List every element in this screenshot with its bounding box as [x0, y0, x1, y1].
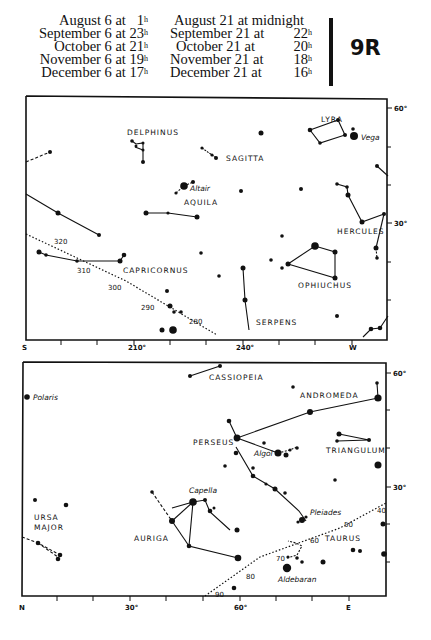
- ecliptic-mark: 310: [77, 267, 90, 275]
- label-vega: Vega: [361, 133, 380, 142]
- label-ursa: URSAMAJOR: [34, 513, 64, 532]
- label-aldebaran: Aldebaran: [277, 575, 317, 584]
- ecliptic-mark: 40: [377, 507, 386, 515]
- label-sagitta: SAGITTA: [226, 154, 265, 163]
- lower-labels: Polaris CASSIOPEIA ANDROMEDA PERSEUS Alg…: [19, 370, 406, 612]
- azimuth-label: 30°: [125, 604, 138, 612]
- label-auriga: AURIGA: [134, 534, 169, 543]
- direction-east: E: [346, 604, 351, 612]
- upper-labels: DELPHINUS SAGITTA LYRA Vega Altair AQUIL…: [22, 105, 407, 352]
- ecliptic-mark: 70: [276, 555, 285, 563]
- star-charts: DELPHINUS SAGITTA LYRA Vega Altair AQUIL…: [0, 0, 431, 640]
- label-perseus: PERSEUS: [193, 438, 234, 447]
- altitude-label: 60°: [394, 105, 407, 113]
- ecliptic-mark: 300: [108, 284, 121, 292]
- azimuth-label: 60°: [234, 604, 247, 612]
- ecliptic-mark: 290: [141, 304, 154, 312]
- altitude-label: 30°: [394, 220, 407, 228]
- ecliptic-mark: 90: [215, 591, 224, 599]
- label-capricornus: CAPRICORNUS: [123, 266, 189, 275]
- direction-north: N: [19, 604, 25, 612]
- label-altair: Altair: [189, 184, 211, 193]
- ecliptic-mark: 280: [189, 318, 202, 326]
- azimuth-label: 240°: [236, 344, 254, 352]
- label-hercules: HERCULES: [337, 227, 385, 236]
- altitude-label: 30°: [393, 484, 406, 492]
- ecliptic-mark: 60: [310, 537, 319, 545]
- label-aquila: AQUILA: [184, 198, 218, 207]
- ecliptic-mark: 50: [344, 521, 353, 529]
- label-andromeda: ANDROMEDA: [300, 391, 359, 400]
- upper-constellation-lines: [26, 120, 388, 337]
- upper-stars: [37, 118, 387, 334]
- altitude-label: 60°: [393, 370, 406, 378]
- label-triangulum: TRIANGULUM: [325, 446, 386, 455]
- label-capella: Capella: [189, 486, 217, 495]
- ecliptic-mark: 320: [54, 238, 67, 246]
- label-pleiades: Pleiades: [310, 508, 341, 517]
- label-taurus: TAURUS: [324, 534, 361, 543]
- direction-south: S: [22, 344, 27, 352]
- label-cassiopeia: CASSIOPEIA: [209, 373, 264, 382]
- ecliptic-mark: 80: [246, 573, 255, 581]
- label-delphinus: DELPHINUS: [127, 128, 179, 137]
- label-lyra: LYRA: [321, 115, 343, 124]
- direction-west: W: [349, 344, 357, 352]
- label-algol: Algol: [253, 449, 274, 458]
- azimuth-label: 210°: [128, 344, 146, 352]
- upper-chart-frame: [26, 96, 392, 345]
- label-ophiuchus: OPHIUCHUS: [298, 281, 352, 290]
- label-serpens: SERPENS: [256, 318, 297, 327]
- label-polaris: Polaris: [33, 393, 58, 402]
